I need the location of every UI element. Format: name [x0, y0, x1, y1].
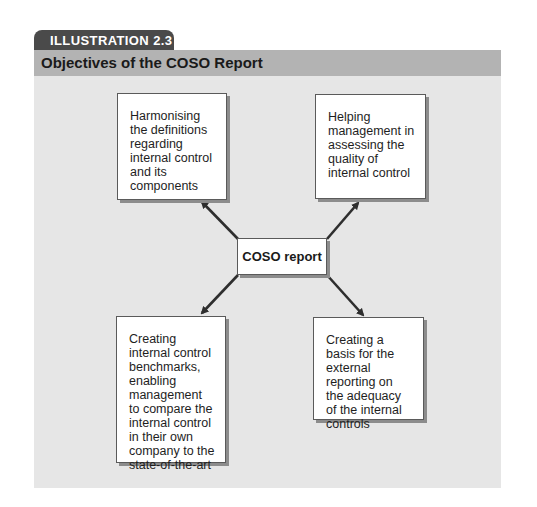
arrow-to-top-right: [327, 203, 358, 239]
objective-text: Harmonising the definitions regarding in…: [130, 109, 212, 193]
objective-box-top-left: Harmonising the definitions regarding in…: [117, 93, 227, 200]
objective-box-bottom-right: Creating a basis for the external report…: [313, 317, 424, 420]
arrow-to-bottom-left: [202, 275, 238, 313]
objective-text: Creating internal control benchmarks, en…: [129, 332, 214, 472]
objective-box-top-right: Helping management in assessing the qual…: [315, 94, 426, 199]
arrow-to-bottom-right: [327, 275, 363, 315]
arrow-to-top-left: [202, 202, 238, 239]
objective-box-bottom-left: Creating internal control benchmarks, en…: [116, 316, 226, 463]
coso-report-label: COSO report: [242, 249, 321, 264]
coso-report-box: COSO report: [237, 238, 327, 275]
objective-text: Helping management in assessing the qual…: [328, 110, 414, 180]
objective-text: Creating a basis for the external report…: [326, 333, 402, 431]
